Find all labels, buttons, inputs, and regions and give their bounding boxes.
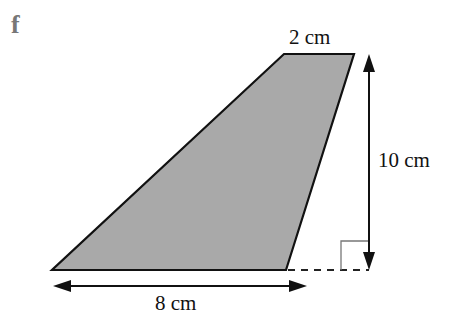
part-letter: f — [11, 10, 20, 40]
arrowhead-down-icon — [363, 252, 375, 270]
trapezium-shape — [52, 54, 354, 270]
arrowhead-left-icon — [53, 280, 71, 292]
top-side-label: 2 cm — [289, 25, 330, 50]
base-label: 8 cm — [155, 291, 196, 316]
height-arrow — [363, 54, 375, 270]
figure-canvas: f 2 cm 10 cm 8 cm — [0, 0, 473, 330]
arrowhead-right-icon — [289, 280, 307, 292]
height-label: 10 cm — [378, 148, 430, 173]
arrowhead-up-icon — [363, 54, 375, 72]
